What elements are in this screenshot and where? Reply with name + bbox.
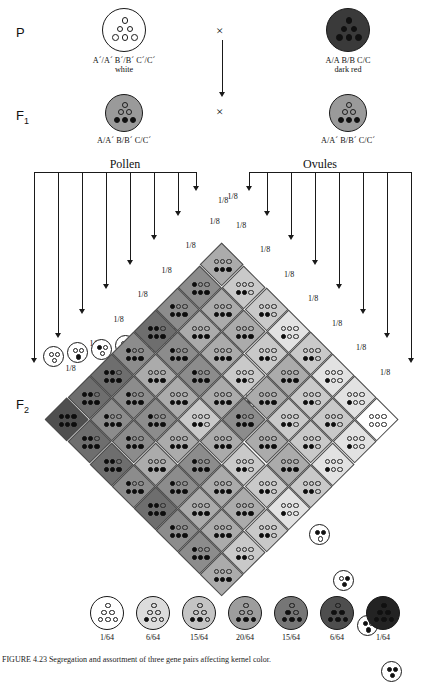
punnett-allele-dot [337, 414, 342, 419]
punnett-allele-dot [132, 481, 137, 486]
punnett-allele-dot [287, 503, 292, 508]
punnett-allele-dot [302, 348, 307, 353]
pollen-arrow-head [151, 235, 157, 240]
punnett-allele-dot [116, 459, 121, 464]
punnett-allele-dot [287, 370, 292, 375]
ovule-arrow-head [408, 358, 414, 363]
punnett-allele-dot [154, 370, 159, 375]
punnett-allele-dot [160, 326, 165, 331]
punnett-allele-dot [154, 414, 159, 419]
punnett-allele-dot [125, 437, 130, 442]
punnett-allele-dot [249, 326, 254, 331]
ovule-stem-line [411, 172, 412, 358]
punnett-allele-dot [220, 577, 225, 582]
punnett-allele-dot [198, 370, 203, 375]
punnett-allele-dot [148, 511, 153, 516]
punnett-allele-dot [337, 459, 342, 464]
ovule-stem-line [267, 172, 268, 211]
pollen-stem-line [178, 172, 179, 211]
gamete-allele-dot [390, 673, 395, 678]
punnett-allele-dot [325, 459, 330, 464]
punnett-allele-dot [258, 437, 263, 442]
punnett-allele-dot [94, 444, 99, 449]
ovule-gamete-fraction: 1/8 [218, 196, 228, 205]
punnett-allele-dot [88, 437, 93, 442]
punnett-allele-dot [249, 370, 254, 375]
punnett-allele-dot [258, 304, 263, 309]
punnett-allele-dot [309, 348, 314, 353]
punnett-allele-dot [176, 312, 181, 317]
pollen-arrow-head [175, 211, 181, 216]
punnett-allele-dot [220, 525, 225, 530]
punnett-allele-dot [138, 481, 143, 486]
phenotype-dot [354, 117, 360, 123]
punnett-allele-dot [183, 304, 188, 309]
punnett-allele-dot [249, 414, 254, 419]
punnett-allele-dot [220, 533, 225, 538]
punnett-allele-dot [331, 414, 336, 419]
punnett-allele-dot [220, 348, 225, 353]
punnett-allele-dot [271, 392, 276, 397]
phenotype-dot [130, 117, 136, 123]
punnett-allele-dot [258, 392, 263, 397]
punnett-allele-dot [198, 467, 203, 472]
punnett-allele-dot [132, 400, 137, 405]
punnett-allele-dot [243, 370, 248, 375]
punnett-allele-dot [293, 467, 298, 472]
punnett-allele-dot [110, 467, 115, 472]
punnett-allele-dot [325, 414, 330, 419]
punnett-allele-dot [280, 459, 285, 464]
phenotype-dot [197, 617, 202, 622]
punnett-allele-dot [154, 459, 159, 464]
phenotype-dot [285, 610, 290, 615]
punnett-allele-dot [214, 489, 219, 494]
phenotype-dot [243, 617, 248, 622]
punnett-allele-dot [59, 422, 64, 427]
punnett-allele-dot [116, 414, 121, 419]
legend-fraction: 20/64 [236, 633, 254, 642]
punnett-allele-dot [170, 489, 175, 494]
phenotype-dot [109, 610, 114, 615]
punnett-allele-dot [148, 414, 153, 419]
punnett-allele-dot [243, 326, 248, 331]
punnett-allele-dot [148, 326, 153, 331]
punnett-allele-dot [315, 437, 320, 442]
phenotype-dot [346, 17, 353, 24]
punnett-allele-dot [192, 467, 197, 472]
punnett-allele-dot [293, 459, 298, 464]
punnett-allele-dot [170, 533, 175, 538]
punnett-allele-dot [148, 370, 153, 375]
punnett-allele-dot [249, 467, 254, 472]
punnett-allele-dot [309, 444, 314, 449]
punnett-allele-dot [337, 370, 342, 375]
punnett-allele-dot [227, 525, 232, 530]
punnett-allele-dot [198, 511, 203, 516]
punnett-allele-dot [280, 467, 285, 472]
punnett-allele-dot [280, 503, 285, 508]
legend-fraction: 15/64 [282, 633, 300, 642]
punnett-allele-dot [192, 290, 197, 295]
punnett-allele-dot [125, 348, 130, 353]
punnett-allele-dot [280, 326, 285, 331]
punnett-allele-dot [192, 414, 197, 419]
phenotype-dot [239, 610, 244, 615]
phenotype-dot [197, 603, 202, 608]
phenotype-dot [335, 617, 340, 622]
punnett-allele-dot [220, 267, 225, 272]
punnett-allele-dot [198, 290, 203, 295]
punnett-allele-dot [110, 414, 115, 419]
legend-fraction: 15/64 [190, 633, 208, 642]
punnett-allele-dot [309, 356, 314, 361]
punnett-allele-dot [138, 348, 143, 353]
punnett-allele-dot [205, 370, 210, 375]
punnett-allele-dot [375, 422, 380, 427]
punnett-allele-dot [236, 459, 241, 464]
punnett-allele-dot [243, 334, 248, 339]
punnett-allele-dot [287, 511, 292, 516]
punnett-allele-dot [236, 422, 241, 427]
punnett-allele-dot [325, 422, 330, 427]
punnett-allele-dot [265, 481, 270, 486]
punnett-allele-dot [265, 312, 270, 317]
punnett-allele-dot [94, 437, 99, 442]
punnett-allele-dot [271, 437, 276, 442]
